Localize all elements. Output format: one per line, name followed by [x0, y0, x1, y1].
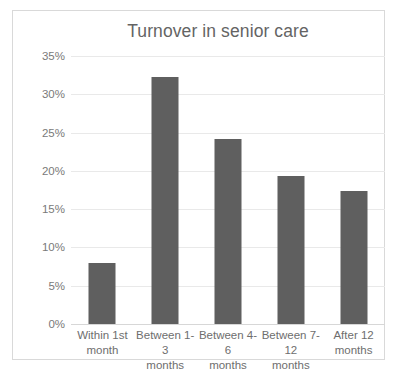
- y-tick-label: 20%: [21, 165, 65, 177]
- x-tick-label-line1: Between 4-6: [199, 329, 257, 356]
- y-tick-label: 25%: [21, 127, 65, 139]
- bar[interactable]: [214, 139, 241, 324]
- y-tick-label: 15%: [21, 203, 65, 215]
- x-tick-label: Between 7-12months: [259, 328, 322, 373]
- gridline: [71, 324, 385, 325]
- x-tick-label: After 12months: [322, 328, 385, 358]
- x-tick-label-line2: months: [134, 358, 197, 373]
- y-tick-label: 30%: [21, 88, 65, 100]
- bar[interactable]: [277, 176, 304, 324]
- y-tick-label: 10%: [21, 241, 65, 253]
- chart-frame: Turnover in senior care 0%5%10%15%20%25%…: [12, 10, 385, 360]
- y-tick-label: 0%: [21, 318, 65, 330]
- x-axis: Within 1stmonthBetween 1-3monthsBetween …: [71, 328, 385, 370]
- bar[interactable]: [152, 77, 179, 324]
- y-tick-label: 5%: [21, 280, 65, 292]
- x-tick-label: Within 1stmonth: [71, 328, 134, 358]
- x-tick-label-line2: months: [322, 343, 385, 358]
- x-tick-label-line2: months: [197, 358, 260, 373]
- y-axis: 0%5%10%15%20%25%30%35%: [19, 56, 65, 324]
- bar-series: [71, 56, 385, 324]
- chart-title: Turnover in senior care: [58, 21, 378, 42]
- bar[interactable]: [89, 263, 116, 324]
- x-tick-label-line1: Between 7-12: [262, 329, 320, 356]
- x-tick-label-line2: months: [259, 358, 322, 373]
- y-tick-label: 35%: [21, 50, 65, 62]
- x-tick-label-line2: month: [71, 343, 134, 358]
- x-tick-label-line1: Within 1st: [77, 329, 128, 341]
- bar-slot: [71, 56, 134, 324]
- bar[interactable]: [340, 191, 367, 324]
- bar-slot: [259, 56, 322, 324]
- bar-slot: [322, 56, 385, 324]
- bar-slot: [197, 56, 260, 324]
- x-tick-label-line1: Between 1-3: [136, 329, 194, 356]
- bar-slot: [134, 56, 197, 324]
- x-tick-label: Between 4-6months: [197, 328, 260, 373]
- x-tick-label: Between 1-3months: [134, 328, 197, 373]
- x-tick-label-line1: After 12: [333, 329, 373, 341]
